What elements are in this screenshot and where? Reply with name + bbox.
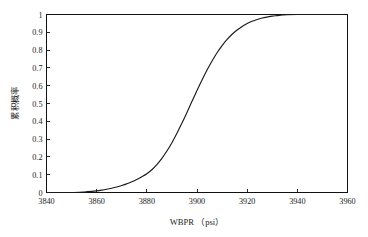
x-tick-label: 3960 <box>339 197 355 206</box>
x-tick-label: 3920 <box>239 197 255 206</box>
x-tick-label: 3840 <box>38 197 54 206</box>
y-tick-label: 0.4 <box>32 117 42 126</box>
y-tick-label: 0.5 <box>32 100 42 109</box>
y-tick-label: 0 <box>38 189 42 198</box>
y-tick-label: 0.8 <box>32 46 42 55</box>
y-tick-label: 0.9 <box>32 28 42 37</box>
y-tick-label: 0.7 <box>32 64 42 73</box>
x-tick-label: 3880 <box>139 197 155 206</box>
cumulative-probability-chart: 3840386038803900392039403960 00.10.20.30… <box>0 0 368 237</box>
x-axis-title: WBPR （psi） <box>170 217 225 227</box>
y-tick-label: 0.6 <box>32 82 42 91</box>
y-tick-label: 0.2 <box>32 153 42 162</box>
y-tick-label: 0.1 <box>32 171 42 180</box>
x-tick-label: 3860 <box>88 197 104 206</box>
x-tick-label: 3940 <box>289 197 305 206</box>
y-tick-label: 0.3 <box>32 135 42 144</box>
chart-figure: 3840386038803900392039403960 00.10.20.30… <box>0 0 368 237</box>
x-tick-label: 3900 <box>189 197 205 206</box>
y-tick-label: 1 <box>38 11 42 20</box>
y-axis-title: 累积概率 <box>10 86 20 120</box>
